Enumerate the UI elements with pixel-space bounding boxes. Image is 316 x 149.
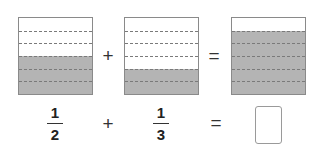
dashed-divider bbox=[19, 81, 92, 82]
dashed-divider bbox=[125, 56, 198, 57]
bar-model-half bbox=[18, 17, 93, 95]
dashed-divider bbox=[125, 43, 198, 44]
fraction-one-third: 1 3 bbox=[151, 105, 171, 142]
shaded-region bbox=[232, 31, 305, 94]
bar-model-sum bbox=[231, 17, 306, 95]
dashed-divider bbox=[19, 69, 92, 70]
dashed-divider bbox=[232, 56, 305, 57]
numerator: 1 bbox=[45, 105, 65, 120]
dashed-divider bbox=[125, 31, 198, 32]
shaded-region bbox=[19, 56, 92, 94]
bar-model-third bbox=[124, 17, 199, 95]
plus-sign-top: + bbox=[102, 46, 113, 65]
dashed-divider bbox=[232, 43, 305, 44]
dashed-divider bbox=[19, 43, 92, 44]
plus-sign-bottom: + bbox=[102, 114, 113, 133]
dashed-divider bbox=[232, 81, 305, 82]
denominator: 2 bbox=[45, 127, 65, 142]
dashed-divider bbox=[125, 81, 198, 82]
equals-sign-bottom: = bbox=[210, 113, 221, 132]
fraction-bar bbox=[47, 123, 63, 124]
equals-sign-top: = bbox=[208, 46, 219, 65]
answer-box[interactable] bbox=[255, 106, 282, 144]
dashed-divider bbox=[232, 69, 305, 70]
dashed-divider bbox=[19, 31, 92, 32]
numerator: 1 bbox=[151, 105, 171, 120]
dashed-divider bbox=[232, 31, 305, 32]
fraction-one-half: 1 2 bbox=[45, 105, 65, 142]
dashed-divider bbox=[125, 69, 198, 70]
fraction-bar bbox=[153, 123, 169, 124]
dashed-divider bbox=[19, 56, 92, 57]
denominator: 3 bbox=[151, 127, 171, 142]
